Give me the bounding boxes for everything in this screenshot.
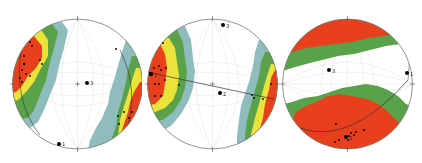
axis-label-2: 2	[349, 135, 352, 141]
axis-label-2: 2	[223, 91, 226, 97]
principal-axis-3	[221, 23, 225, 27]
axis-label-3: 3	[332, 68, 335, 74]
principal-axis-3	[85, 81, 89, 85]
stereonet-panel-3: 3 1 2	[270, 0, 422, 163]
principal-axis-1	[149, 72, 153, 76]
axis-label-1: 1	[410, 71, 413, 77]
axis-label-3: 3	[226, 23, 229, 29]
principal-axis-2	[344, 135, 348, 139]
principal-axis-1	[57, 142, 61, 146]
principal-axis-3	[327, 68, 331, 72]
stereonet-panel-1: 3 1	[0, 0, 142, 163]
stereonet-figure: 3 1	[0, 0, 422, 163]
axis-label-1: 1	[62, 141, 65, 147]
axis-label-1: 1	[154, 72, 157, 78]
principal-axis-2	[218, 91, 222, 95]
principal-axis-1	[405, 71, 409, 75]
stereonet-panel-2: 3 2 1	[135, 0, 280, 163]
axis-label-3: 3	[90, 80, 93, 86]
